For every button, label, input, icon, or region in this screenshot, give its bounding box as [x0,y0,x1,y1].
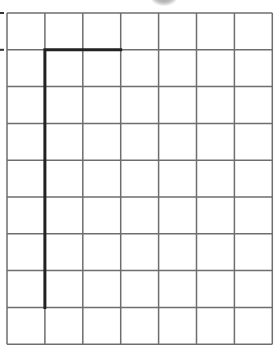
grid-lines [7,13,272,344]
tick-marks [0,13,4,50]
grid-canvas [0,0,274,345]
grid-diagram [0,0,274,345]
